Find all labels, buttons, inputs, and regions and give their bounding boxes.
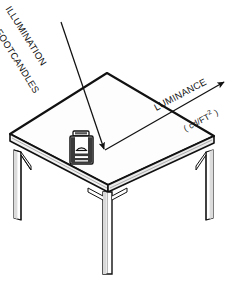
can-band-left — [71, 137, 75, 163]
table-graphic — [10, 73, 214, 274]
can-band-right — [88, 137, 92, 163]
leg-front — [88, 188, 127, 274]
can-stripe-2 — [75, 158, 88, 160]
can-stripe-3 — [72, 162, 91, 164]
can-stripe-1 — [75, 154, 88, 157]
leg-right — [196, 150, 213, 220]
can-on-table — [70, 131, 93, 164]
can-lid-shade — [75, 132, 87, 134]
leg-left — [14, 150, 31, 220]
figure-illumination-luminance: ILLUMINATION FOOTCANDLES LUMINANCE ( cd/… — [0, 0, 235, 281]
